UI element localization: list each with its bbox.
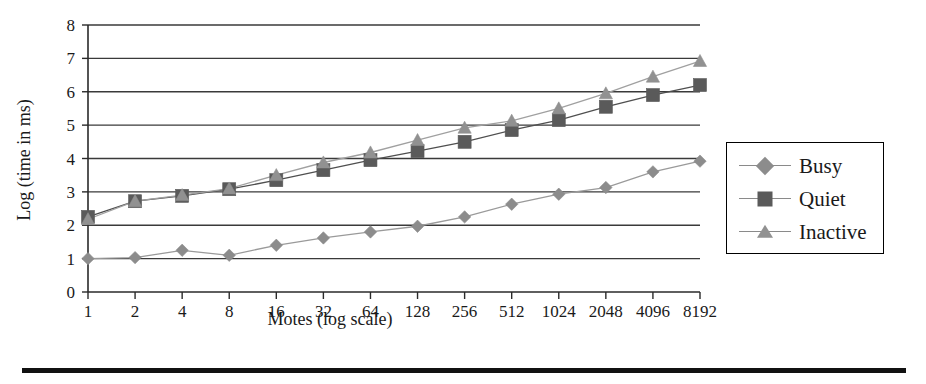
x-axis-title: Motes (log scale) xyxy=(268,309,393,330)
y-axis-tick-label: 2 xyxy=(67,216,76,235)
data-point-busy-16 xyxy=(270,239,282,251)
series-markers-group xyxy=(81,54,706,264)
y-axis-tick-label: 7 xyxy=(67,49,76,68)
legend-swatch-busy xyxy=(737,156,793,176)
y-axis-tick-label: 4 xyxy=(67,150,76,169)
y-axis-tick-label: 1 xyxy=(67,250,76,269)
y-axis-tick-label: 5 xyxy=(67,116,76,135)
legend-label-busy: Busy xyxy=(799,154,842,179)
y-axis-title: Log (time in ms) xyxy=(14,99,35,220)
x-axis-ticks-group xyxy=(88,292,700,299)
series-line-busy xyxy=(88,161,700,258)
x-axis-tick-label: 8 xyxy=(225,302,234,321)
data-point-busy-1 xyxy=(82,252,94,264)
data-point-quiet-128 xyxy=(411,145,424,158)
y-axis-tick-label: 6 xyxy=(67,83,76,102)
data-point-inactive-1024 xyxy=(552,102,565,114)
x-axis-tick-label: 256 xyxy=(452,302,478,321)
legend-item-inactive[interactable]: Inactive xyxy=(727,215,883,249)
x-axis-tick-label: 4 xyxy=(178,302,187,321)
x-axis-tick-label: 4096 xyxy=(636,302,670,321)
chart-legend: Busy Quiet Inactive xyxy=(726,142,884,254)
data-point-quiet-1024 xyxy=(552,114,565,127)
chart-plot-area: 012345678 124816326412825651210242048409… xyxy=(0,0,720,330)
data-point-busy-4 xyxy=(176,244,188,256)
legend-swatch-quiet xyxy=(737,189,793,209)
x-axis-tick-label: 512 xyxy=(499,302,525,321)
data-point-busy-2 xyxy=(129,251,141,263)
legend-item-busy[interactable]: Busy xyxy=(727,149,883,183)
legend-label-quiet: Quiet xyxy=(799,187,846,212)
diamond-marker-icon xyxy=(756,157,774,175)
legend-label-inactive: Inactive xyxy=(799,220,867,245)
data-point-busy-512 xyxy=(505,198,517,210)
data-point-busy-4096 xyxy=(647,166,659,178)
legend-swatch-inactive xyxy=(737,222,793,242)
x-axis-tick-label: 2 xyxy=(131,302,140,321)
data-point-busy-32 xyxy=(317,232,329,244)
figure-container: 012345678 124816326412825651210242048409… xyxy=(0,0,926,384)
y-axis-tick-label: 0 xyxy=(67,283,76,302)
data-point-quiet-8192 xyxy=(694,79,707,92)
data-point-busy-64 xyxy=(364,226,376,238)
gridlines-group xyxy=(88,25,700,259)
x-axis-tick-label: 128 xyxy=(405,302,431,321)
data-point-busy-1024 xyxy=(553,188,565,200)
data-point-busy-256 xyxy=(458,211,470,223)
data-point-quiet-4096 xyxy=(646,89,659,102)
data-point-busy-128 xyxy=(411,220,423,232)
x-axis-tick-label: 1024 xyxy=(542,302,577,321)
data-point-busy-8 xyxy=(223,249,235,261)
y-axis-tick-label: 8 xyxy=(67,16,76,35)
data-point-busy-8192 xyxy=(694,155,706,167)
triangle-marker-icon xyxy=(757,225,773,238)
bottom-horizontal-rule xyxy=(22,368,906,373)
chart-svg: 012345678 124816326412825651210242048409… xyxy=(0,0,720,330)
x-axis-tick-label: 8192 xyxy=(683,302,717,321)
x-axis-tick-label: 1 xyxy=(84,302,93,321)
y-axis-tick-label: 3 xyxy=(67,183,76,202)
data-point-quiet-2048 xyxy=(599,100,612,113)
data-point-quiet-256 xyxy=(458,135,471,148)
y-axis-tick-labels-group: 012345678 xyxy=(67,16,76,302)
legend-item-quiet[interactable]: Quiet xyxy=(727,182,883,216)
square-marker-icon xyxy=(758,192,773,207)
data-point-inactive-4096 xyxy=(646,70,659,82)
data-point-inactive-8192 xyxy=(693,54,706,66)
y-axis-ticks-group xyxy=(82,25,88,292)
x-axis-tick-label: 2048 xyxy=(589,302,623,321)
data-point-inactive-2048 xyxy=(599,87,612,99)
x-axis-tick-labels-group: 12481632641282565121024204840968192 xyxy=(84,302,717,321)
